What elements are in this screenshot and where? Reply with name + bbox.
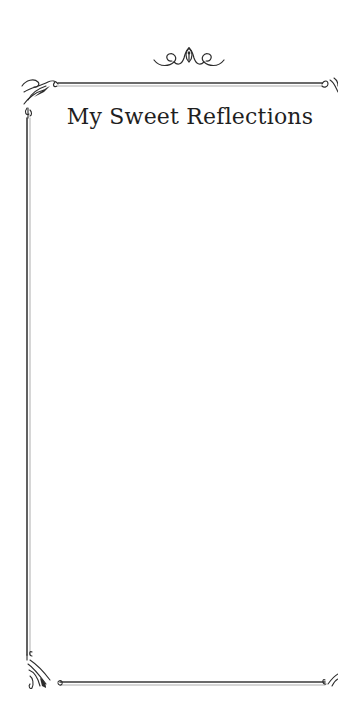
journal-page: My Sweet Reflections [0,0,338,713]
corner-flourish-icon [323,674,338,686]
page-title: My Sweet Reflections [0,104,338,129]
corner-flourish-icon [322,78,338,92]
reflection-writing-area [34,150,334,670]
